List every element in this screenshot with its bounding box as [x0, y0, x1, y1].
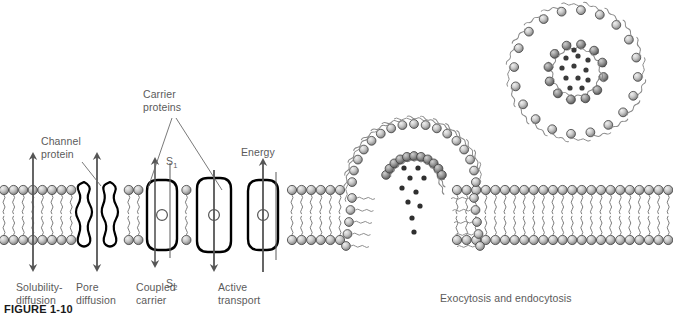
mechanism-label-coupled-carrier: Coupledcarrier: [136, 281, 176, 306]
figure-number: FIGURE 1-10: [4, 303, 73, 315]
mechanism-label-pore-diffusion: Porediffusion: [76, 281, 116, 306]
membrane-proteins: [76, 178, 278, 252]
callout-carrier-proteins: Carrierproteins: [143, 88, 181, 113]
lipid-bilayer: [0, 185, 673, 244]
fusing-vesicle: [342, 115, 485, 250]
callout-channel-protein: Channelprotein: [41, 135, 81, 160]
diagram-canvas: [0, 0, 673, 316]
callout-energy: Energy: [241, 146, 275, 159]
free-vesicle: [506, 2, 647, 143]
bottom-caption: Exocytosis and endocytosis: [440, 292, 572, 305]
mechanism-label-active-transport: Activetransport: [218, 281, 260, 306]
membrane-transport-figure: Channelprotein Carrierproteins Energy S1…: [0, 0, 673, 316]
label-s1: S1: [154, 142, 177, 185]
